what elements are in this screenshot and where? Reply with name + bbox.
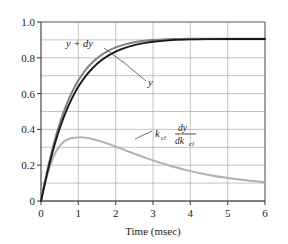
label-sensitivity-denominator-sub: cl xyxy=(189,140,194,148)
label-sensitivity-base: k xyxy=(155,128,160,139)
x-tick-label-0: 0 xyxy=(38,207,44,219)
x-tick-label-3: 3 xyxy=(150,207,156,219)
x-tick-label-1: 1 xyxy=(76,207,82,219)
label-sensitivity-numerator: dy xyxy=(178,123,188,133)
x-tick-label-2: 2 xyxy=(113,207,119,219)
x-axis-title: Time (msec) xyxy=(125,225,181,238)
label-sensitivity-base-sub: cl xyxy=(161,134,166,142)
chart-figure: 1.0 0.8 0.6 0.4 0.2 0 0 1 2 3 4 5 6 Time… xyxy=(0,0,288,244)
y-tick-label-02: 0.2 xyxy=(21,159,35,171)
label-y-plus-dy: y + dy xyxy=(65,38,93,49)
y-tick-label-04: 0.4 xyxy=(21,123,35,135)
y-tick-label-08: 0.8 xyxy=(21,52,35,64)
x-tick-label-4: 4 xyxy=(188,207,194,219)
x-tick-label-5: 5 xyxy=(225,207,231,219)
y-tick-label-06: 0.6 xyxy=(21,88,35,100)
label-y: y xyxy=(147,77,153,88)
chart-svg: 1.0 0.8 0.6 0.4 0.2 0 0 1 2 3 4 5 6 Time… xyxy=(0,0,288,244)
label-sensitivity-denominator-base: dk xyxy=(175,136,185,146)
x-tick-label-6: 6 xyxy=(262,207,268,219)
y-tick-label-0: 0 xyxy=(30,195,36,207)
y-tick-label-1: 1.0 xyxy=(21,16,35,28)
